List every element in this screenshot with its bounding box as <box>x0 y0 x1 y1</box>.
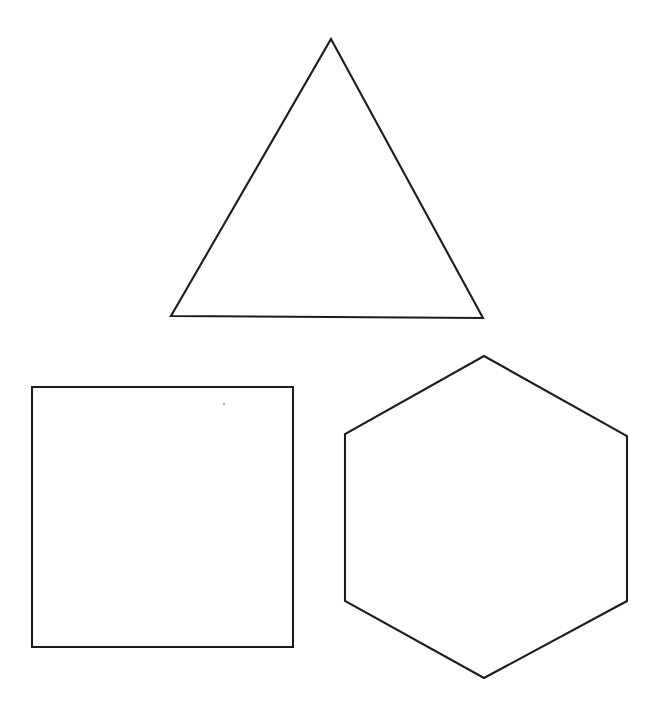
canvas-background <box>0 0 665 714</box>
drawing-canvas <box>0 0 665 714</box>
scan-speck-artifact <box>223 403 226 406</box>
shapes-svg <box>0 0 665 714</box>
